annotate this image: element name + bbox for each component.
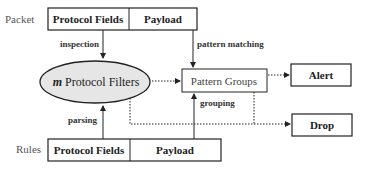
drop-label: Drop xyxy=(310,120,334,131)
packet-payload: Payload xyxy=(144,14,182,25)
rules-payload: Payload xyxy=(156,145,194,156)
filters-prefix: m xyxy=(53,75,62,89)
inspection-label: inspection xyxy=(60,40,99,49)
protocol-filters-label: m Protocol Filters xyxy=(53,76,140,88)
pattern-matching-label: pattern matching xyxy=(197,40,264,49)
filters-text: Protocol Filters xyxy=(62,75,139,89)
rules-protocol-fields: Protocol Fields xyxy=(54,145,124,156)
grouping-label: grouping xyxy=(200,99,235,108)
rules-label: Rules xyxy=(16,144,41,155)
packet-protocol-fields: Protocol Fields xyxy=(53,14,123,25)
packet-label: Packet xyxy=(5,14,34,25)
alert-label: Alert xyxy=(309,70,333,81)
parsing-label: parsing xyxy=(68,116,97,125)
pattern-groups-label: Pattern Groups xyxy=(191,76,257,87)
